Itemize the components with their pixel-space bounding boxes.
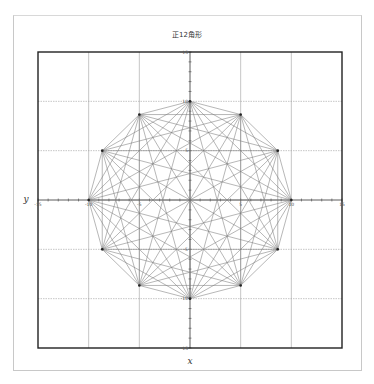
polygon-vertex [101,248,104,251]
y-tick-label: 5 [185,148,188,153]
polygon-edge [241,249,278,285]
polygon-vertex [239,284,242,287]
polygon-edge [278,151,292,200]
polygon-edge [139,249,277,285]
polygon-vertex [101,149,104,152]
polygon-vertex [276,248,279,251]
y-tick-label: 15 [182,50,188,55]
polygon-edge [102,115,240,250]
polygon-vertex [189,297,192,300]
y-axis-label: y [22,194,29,204]
polygon-edge [89,151,103,200]
x-tick-label: 10 [288,202,294,207]
x-tick-label: -5 [137,202,142,207]
polygon-edge [89,200,140,285]
polygon-edge [102,249,190,298]
polygon-edge [102,115,139,151]
polygon-edge [139,151,277,286]
polygon-vertex [239,113,242,116]
y-tick-label: 10 [182,99,188,104]
y-tick-label: -5 [184,247,189,252]
polygon-vertex [138,113,141,116]
polygon-edge [102,249,240,285]
polygon-edge [241,115,278,151]
polygon-edge [102,151,240,286]
polygon-edge [241,115,278,250]
polygon-edge [102,151,190,299]
polygon-edge [89,200,241,285]
x-axis-label: x [187,356,192,366]
polygon-edge [278,200,292,249]
polygon-vertex [189,100,192,103]
polygon-edge [102,249,139,285]
polygon-edge [190,285,241,298]
y-tick-label: -15 [181,346,188,351]
polygon-edge [190,101,278,249]
x-tick-label: 5 [239,202,242,207]
y-tick-label: -10 [181,296,188,301]
x-tick-label: 15 [339,202,345,207]
x-tick-label: -10 [85,202,92,207]
plot-area: -15-10-551015-15-10-551015xy [0,0,374,384]
polygon-vertex [276,149,279,152]
polygon-vertex [87,199,90,202]
polygon-edge [139,115,277,250]
polygon-edge [190,101,241,114]
polygon-edge [89,200,103,249]
x-tick-label: -15 [34,202,41,207]
polygon-vertex [138,284,141,287]
polygon-vertex [290,199,293,202]
polygon-edge [190,249,278,298]
